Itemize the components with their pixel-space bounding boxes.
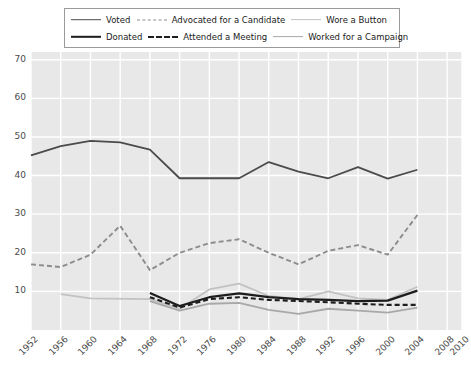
y-axis-tick-label: 50	[2, 131, 26, 141]
y-axis-tick-label: 40	[2, 170, 26, 180]
y-axis-tick-label: 10	[2, 285, 26, 295]
y-axis-tick-label: 30	[2, 208, 26, 218]
y-axis-tick-label: 60	[2, 92, 26, 102]
plot-background	[31, 52, 462, 330]
y-axis-tick-label: 20	[2, 247, 26, 257]
y-axis-tick-label: 70	[2, 54, 26, 64]
